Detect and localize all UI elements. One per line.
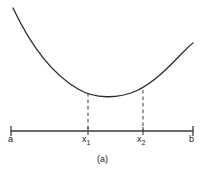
axis-label-a-text: a bbox=[8, 134, 13, 144]
axis-label-b-text: b bbox=[189, 134, 194, 144]
axis-label-x2: x2 bbox=[137, 135, 145, 146]
axis-label-x1-subscript: 1 bbox=[87, 139, 91, 146]
axis-label-x2-subscript: 2 bbox=[142, 139, 146, 146]
convex-function-diagram bbox=[0, 0, 205, 173]
axis-label-b: b bbox=[189, 135, 194, 144]
figure-container: a x1 x2 b (a) bbox=[0, 0, 205, 173]
axis-label-x1: x1 bbox=[82, 135, 90, 146]
axis-label-a: a bbox=[8, 135, 13, 144]
figure-caption: (a) bbox=[0, 155, 205, 164]
convex-curve bbox=[13, 8, 193, 97]
